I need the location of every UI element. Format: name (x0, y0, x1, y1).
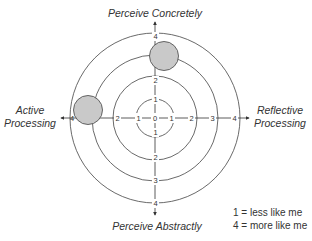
tick-right-2: 2 (189, 114, 193, 123)
axis-label-top: Perceive Concretely (108, 7, 202, 20)
tick-up-4: 4 (153, 32, 157, 41)
tick-down-2: 2 (153, 153, 157, 162)
tick-down-3: 3 (153, 176, 157, 185)
axis-label-right-line1: Reflective (250, 104, 310, 117)
tick-down-1: 1 (153, 128, 157, 137)
legend: 1 = less like me 4 = more like me (233, 206, 307, 232)
axis-label-right-line2: Processing (250, 117, 310, 130)
axis-label-left-line1: Active (2, 104, 58, 117)
axis-label-bottom: Perceive Abstractly (112, 220, 202, 233)
axis-label-right: Reflective Processing (250, 104, 310, 130)
concrete-marker (150, 42, 179, 71)
axis-label-left: Active Processing (2, 104, 58, 130)
axis-label-left-line2: Processing (2, 117, 58, 130)
active-marker (74, 96, 103, 125)
tick-right-4: 4 (232, 114, 236, 123)
tick-right-1: 1 (169, 114, 173, 123)
tick-down-4: 4 (153, 199, 157, 208)
tick-up-2: 2 (153, 76, 157, 85)
tick-left-4: 4 (70, 114, 74, 123)
tick-left-1: 1 (136, 114, 140, 123)
tick-up-1: 1 (153, 95, 157, 104)
tick-center: 0 (153, 114, 157, 123)
legend-line-1: 1 = less like me (233, 206, 307, 219)
legend-line-2: 4 = more like me (233, 219, 307, 232)
tick-right-3: 3 (210, 114, 214, 123)
tick-left-2: 2 (115, 114, 119, 123)
